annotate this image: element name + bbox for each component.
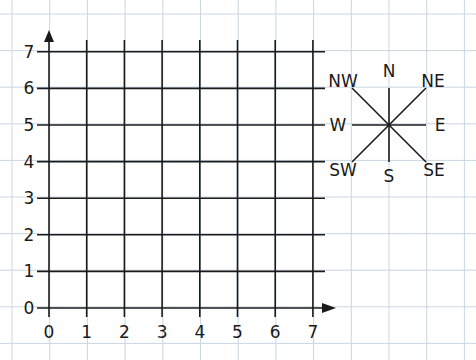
y-tick-label: 1 — [24, 261, 35, 281]
y-axis-tick-labels: 01234567 — [24, 42, 35, 318]
x-tick-label: 2 — [119, 322, 130, 342]
x-tick-label: 3 — [157, 322, 168, 342]
y-tick-label: 2 — [24, 225, 35, 245]
x-axis-tick-labels: 01234567 — [44, 322, 319, 342]
y-tick-label: 6 — [24, 78, 35, 98]
compass-label-se: SE — [423, 160, 445, 180]
compass-label-nw: NW — [328, 71, 358, 91]
x-tick-label: 5 — [232, 322, 243, 342]
y-tick-label: 5 — [24, 115, 35, 135]
y-tick-label: 4 — [24, 152, 35, 172]
graph-grid — [37, 36, 325, 317]
compass-label-e: E — [435, 115, 446, 135]
x-tick-label: 1 — [81, 322, 92, 342]
x-axis-arrow-icon — [322, 303, 336, 313]
x-tick-label: 0 — [44, 322, 55, 342]
compass-label-sw: SW — [329, 160, 357, 180]
y-tick-label: 0 — [24, 298, 35, 318]
x-tick-label: 6 — [270, 322, 281, 342]
y-tick-label: 7 — [24, 42, 35, 62]
x-tick-label: 7 — [307, 322, 318, 342]
compass-rose — [352, 88, 426, 162]
compass-label-s: S — [384, 166, 395, 186]
x-tick-label: 4 — [194, 322, 205, 342]
compass-label-ne: NE — [421, 71, 444, 91]
y-tick-label: 3 — [24, 188, 35, 208]
compass-label-w: W — [330, 115, 347, 135]
compass-label-n: N — [383, 61, 396, 81]
coordinate-grid-diagram: 01234567 01234567 N S E W NE NW SE SW — [0, 0, 476, 360]
y-axis-arrow-icon — [44, 30, 54, 42]
